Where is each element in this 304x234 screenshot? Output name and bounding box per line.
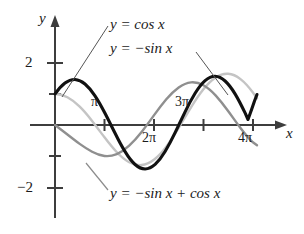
y-axis-label: y — [39, 11, 46, 26]
x-tick-label-3pi: 3π — [175, 95, 189, 109]
curve-cos-x — [55, 74, 257, 165]
x-tick-label-pi: π — [91, 95, 98, 109]
leader-line-cos — [62, 26, 108, 97]
x-tick-label-4pi: 4π — [238, 131, 252, 145]
curve-label-cos: y = cos x — [110, 17, 165, 32]
curve-sum — [55, 76, 257, 169]
x-tick-label-2pi: 2π — [142, 131, 156, 145]
curve-label-minus-sin: y = −sin x — [110, 41, 172, 56]
curve-label-sum: y = −sin x + cos x — [110, 186, 220, 201]
y-axis-arrowhead — [51, 15, 60, 27]
trig-superposition-figure: y x 2 −2 π 2π 3π 4π y = cos x y = −sin x… — [0, 0, 304, 234]
y-tick-label-2: 2 — [25, 55, 33, 70]
y-tick-label-minus-2: −2 — [17, 180, 33, 195]
x-axis-label: x — [286, 126, 293, 141]
leader-line-sum — [86, 163, 108, 190]
